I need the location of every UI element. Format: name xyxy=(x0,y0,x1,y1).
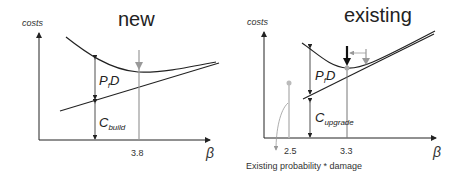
total-cost-curve xyxy=(302,31,435,68)
existing-tick: 2.5 xyxy=(284,146,297,156)
failure-cost-label: PfD xyxy=(99,73,119,90)
optimum-arrow-icon xyxy=(135,62,143,70)
optimum-point xyxy=(345,66,350,71)
failure-cost-label: PfD xyxy=(315,68,335,85)
existing-pointer xyxy=(276,103,288,150)
y-axis-label: costs xyxy=(22,18,43,28)
total-cost-curve xyxy=(66,37,216,72)
existing-annotation: Existing probability * damage xyxy=(246,161,362,171)
optimum-arrow-icon xyxy=(343,58,351,66)
diagram-canvas xyxy=(0,0,462,185)
panel-title: existing xyxy=(344,4,412,27)
panel-existing xyxy=(264,31,436,150)
panel-new xyxy=(39,33,219,140)
build-cost-label: Cbuild xyxy=(99,115,125,132)
y-axis-label: costs xyxy=(247,17,268,27)
optimum-tick: 3.3 xyxy=(340,146,353,156)
upgrade-cost-line xyxy=(303,34,434,99)
optimum-tick: 3.8 xyxy=(131,148,144,158)
panel-title: new xyxy=(118,8,155,31)
existing-point xyxy=(287,81,292,86)
x-axis-label: β xyxy=(433,144,441,160)
x-axis-label: β xyxy=(206,145,214,161)
upgrade-cost-label: Cupgrade xyxy=(315,110,354,127)
